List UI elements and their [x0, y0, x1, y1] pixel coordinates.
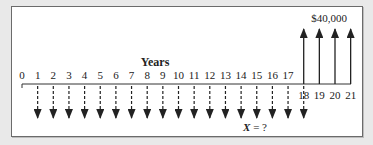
- period-label: 0: [19, 69, 25, 81]
- period-label: 9: [160, 69, 166, 81]
- cash-flow-timeline: Years 0123456789101112131415161718192021…: [0, 0, 373, 145]
- period-label: 15: [251, 69, 263, 81]
- period-label: 3: [66, 69, 72, 81]
- period-label: 6: [113, 69, 119, 81]
- period-label: 7: [129, 69, 135, 81]
- period-label: 12: [204, 69, 215, 81]
- inflow-arrows: [304, 29, 351, 84]
- period-label: 20: [330, 89, 342, 101]
- period-label: 16: [267, 69, 279, 81]
- period-label: 14: [236, 69, 248, 81]
- period-label: 1: [35, 69, 41, 81]
- outflow-amount-label: X = ?: [242, 121, 267, 133]
- period-label: 13: [220, 69, 232, 81]
- period-label: 18: [298, 89, 310, 101]
- period-labels: 0123456789101112131415161718192021: [19, 69, 356, 101]
- period-label: 21: [345, 89, 356, 101]
- period-label: 19: [314, 89, 326, 101]
- axis-title-years: Years: [141, 55, 170, 69]
- inflow-amount-label: $40,000: [311, 12, 347, 24]
- outflow-arrows: [38, 86, 304, 118]
- period-label: 11: [189, 69, 200, 81]
- outflow-equals-unknown: = ?: [250, 121, 267, 133]
- period-label: 8: [144, 69, 150, 81]
- period-label: 17: [283, 69, 295, 81]
- period-label: 10: [173, 69, 185, 81]
- period-label: 5: [98, 69, 104, 81]
- period-label: 4: [82, 69, 88, 81]
- period-label: 2: [51, 69, 57, 81]
